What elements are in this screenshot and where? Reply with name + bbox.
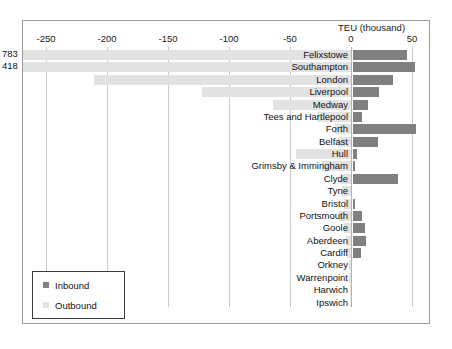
x-axis-tick-labels: -250-200-150-100-50050 (0, 33, 452, 47)
x-tick-label: -200 (97, 33, 116, 44)
category-label: Cardiff (320, 247, 348, 259)
bar-rows: FelixstoweSouthamptonLondonLiverpoolMedw… (22, 47, 430, 307)
overflow-value-label: 783 (2, 48, 18, 59)
chart-container: TEU (thousand) -250-200-150-100-50050 Fe… (0, 0, 452, 349)
x-tick-label: -250 (36, 33, 55, 44)
bar-inbound (353, 87, 380, 97)
category-label: Ipswich (316, 297, 348, 309)
bar-outbound (349, 273, 351, 283)
bar-outbound (350, 298, 351, 308)
category-label: Medway (313, 99, 348, 111)
bar-inbound (353, 211, 363, 221)
category-label: Goole (323, 222, 348, 234)
bar-outbound (349, 260, 351, 270)
x-tick-label: 50 (407, 33, 418, 44)
bar-inbound (353, 50, 408, 60)
bar-inbound (353, 62, 415, 72)
x-tick-label: 0 (348, 33, 353, 44)
category-label: Warrenpoint (297, 272, 348, 284)
category-label: Harwich (314, 284, 348, 296)
bar-inbound (353, 236, 366, 246)
legend-item-inbound: Inbound (43, 280, 89, 291)
x-tick-label: -150 (158, 33, 177, 44)
legend-item-outbound: Outbound (43, 300, 97, 311)
legend-label-outbound: Outbound (55, 300, 97, 311)
category-label: Tyne (327, 185, 348, 197)
category-label: Orkney (317, 259, 348, 271)
category-label: Bristol (322, 198, 348, 210)
legend-label-inbound: Inbound (55, 280, 89, 291)
plot-area: FelixstoweSouthamptonLondonLiverpoolMedw… (22, 47, 430, 307)
category-label: Forth (326, 123, 348, 135)
bar-inbound (353, 248, 362, 258)
bar-inbound (353, 112, 363, 122)
bar-inbound (353, 137, 379, 147)
bar-inbound (353, 75, 393, 85)
overflow-value-label: 418 (2, 60, 18, 71)
bar-inbound (353, 100, 369, 110)
legend-swatch-outbound-icon (43, 302, 49, 308)
chart-legend: Inbound Outbound (32, 271, 125, 319)
category-label: Grimsby & Immingham (251, 160, 348, 172)
bar-inbound (353, 124, 416, 134)
category-label: Southampton (291, 61, 348, 73)
category-label: Liverpool (309, 86, 348, 98)
category-label: London (316, 74, 348, 86)
bar-inbound (353, 174, 398, 184)
x-tick-label: -50 (283, 33, 297, 44)
bar-inbound (353, 199, 355, 209)
bar-outbound (350, 285, 351, 295)
category-label: Felixstowe (303, 49, 348, 61)
legend-swatch-inbound-icon (43, 282, 49, 288)
category-label: Aberdeen (307, 235, 348, 247)
category-label: Clyde (324, 173, 348, 185)
bar-outbound (94, 75, 351, 85)
bar-inbound (353, 149, 358, 159)
bar-inbound (353, 223, 365, 233)
x-tick-label: -100 (219, 33, 238, 44)
axis-title: TEU (thousand) (338, 22, 405, 33)
category-label: Portsmouth (299, 210, 348, 222)
category-label: Tees and Hartlepool (264, 111, 349, 123)
category-label: Hull (332, 148, 348, 160)
category-label: Belfast (319, 136, 348, 148)
bar-inbound (353, 161, 355, 171)
bar-outbound (23, 50, 351, 60)
